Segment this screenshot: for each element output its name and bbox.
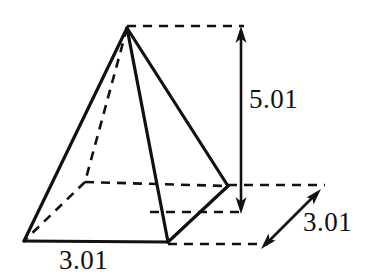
depth-dimension-label: 3.01 bbox=[303, 209, 352, 236]
extension-lines-group bbox=[127, 26, 325, 244]
hidden-edge-base-back-left bbox=[24, 182, 85, 241]
solid-edge-base-right bbox=[168, 186, 228, 242]
height-dimension-label: 5.01 bbox=[249, 86, 298, 113]
hidden-edges-group bbox=[24, 28, 228, 241]
width-dimension-label: 3.01 bbox=[59, 247, 108, 274]
solid-edge-base-front bbox=[24, 241, 168, 242]
solid-edges-group bbox=[24, 28, 228, 242]
pyramid-figure: 5.01 3.01 3.01 bbox=[0, 0, 373, 277]
solid-edge-apex-to-front-left bbox=[24, 28, 127, 241]
